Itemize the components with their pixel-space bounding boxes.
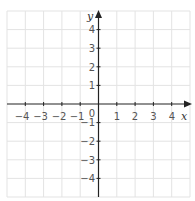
x-tick-label: −2 xyxy=(52,111,67,122)
y-tick-label: 1 xyxy=(89,80,95,91)
y-axis-label: y xyxy=(86,10,94,23)
x-tick-label: −3 xyxy=(33,111,48,122)
x-tick-label: 2 xyxy=(132,111,138,122)
y-tick-label: 3 xyxy=(89,43,95,54)
y-tick-label: −3 xyxy=(80,155,95,166)
y-tick-label: 4 xyxy=(89,24,95,35)
x-tick-label: 1 xyxy=(114,111,120,122)
x-axis-arrow-icon xyxy=(184,101,192,108)
x-axis xyxy=(7,101,192,108)
x-tick-label: 4 xyxy=(169,111,175,122)
x-axis-label: x xyxy=(181,110,188,123)
y-tick-label: −2 xyxy=(80,136,95,147)
y-tick-label: −4 xyxy=(80,173,95,184)
x-tick-label: 3 xyxy=(150,111,156,122)
y-tick-label: −1 xyxy=(80,117,95,128)
y-tick-label: 2 xyxy=(89,62,95,73)
coordinate-plane: x y −4 −3 −2 −1 0 1 2 3 4 4 3 2 1 −1 −2 … xyxy=(0,0,195,201)
x-tick-label: −4 xyxy=(15,111,30,122)
